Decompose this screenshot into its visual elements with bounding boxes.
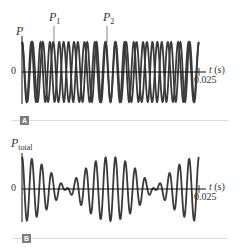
panel-b: Ptotal 0 t (s) 0.025 B xyxy=(0,125,239,251)
panel-a-y-label: P xyxy=(16,24,23,39)
panel-b-badge: B xyxy=(22,234,31,243)
panel-a-divider xyxy=(12,120,228,121)
p1-label: P1 xyxy=(49,10,60,25)
panel-a: P P1 P2 0 t (s) 0.025 A xyxy=(0,0,239,125)
panel-b-y-label: Ptotal xyxy=(11,136,33,151)
panel-a-badge: A xyxy=(20,116,29,125)
p2-label: P2 xyxy=(103,10,114,25)
panel-a-zero-label: 0 xyxy=(11,65,16,76)
panel-b-divider xyxy=(12,238,228,239)
panel-a-x-tick-label: 0.025 xyxy=(194,74,217,85)
panel-b-zero-label: 0 xyxy=(11,182,16,193)
panel-a-plot xyxy=(0,0,239,125)
panel-b-x-tick-label: 0.025 xyxy=(194,191,217,202)
panel-b-plot xyxy=(0,125,239,251)
